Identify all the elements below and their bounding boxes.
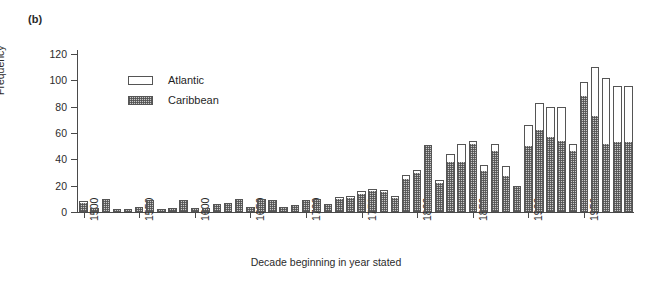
bar-segment-caribbean — [191, 208, 199, 212]
x-axis-title: Decade beginning in year stated — [0, 256, 652, 268]
bar-segment-caribbean — [457, 162, 465, 212]
bar-column — [491, 54, 499, 212]
y-axis-title: Frequency — [0, 45, 6, 95]
legend-item-caribbean: Caribbean — [128, 90, 219, 110]
x-tick-mark — [584, 213, 585, 218]
bar-segment-atlantic — [357, 191, 365, 194]
bar-segment-caribbean — [291, 205, 299, 212]
bar-column — [302, 54, 310, 212]
bar-column — [535, 54, 543, 212]
y-tick-mark — [71, 159, 77, 160]
bar-column — [402, 54, 410, 212]
bar-segment-caribbean — [569, 151, 577, 212]
bar-column — [435, 54, 443, 212]
figure-panel-b: (b) Frequency 020406080100120 1500155016… — [0, 0, 652, 287]
bar-segment-caribbean — [491, 151, 499, 212]
bar-segment-atlantic — [469, 141, 477, 144]
x-tick-mark — [139, 213, 140, 218]
bar-segment-caribbean — [524, 146, 532, 212]
bar-segment-caribbean — [268, 201, 276, 212]
bar-segment-caribbean — [391, 198, 399, 212]
bar-column — [557, 54, 565, 212]
bar-segment-atlantic — [557, 107, 565, 141]
bar-column — [357, 54, 365, 212]
bar-column — [413, 54, 421, 212]
x-tick-mark — [195, 213, 196, 218]
bar-segment-caribbean — [213, 204, 221, 212]
bar-column — [569, 54, 577, 212]
legend-label-atlantic: Atlantic — [168, 74, 204, 86]
bar-column — [90, 54, 98, 212]
y-tick: 20 — [71, 186, 77, 187]
bar-segment-caribbean — [446, 162, 454, 212]
bar-segment-caribbean — [224, 203, 232, 212]
chart-legend: Atlantic Caribbean — [128, 70, 219, 110]
bar-segment-atlantic — [391, 196, 399, 198]
bar-column — [368, 54, 376, 212]
bar-segment-caribbean — [602, 144, 610, 212]
bar-segment-atlantic — [480, 165, 488, 172]
bar-segment-caribbean — [124, 209, 132, 212]
x-tick-mark — [473, 213, 474, 218]
bar-segment-caribbean — [168, 208, 176, 212]
x-tick-mark — [417, 213, 418, 218]
y-tick-mark — [71, 212, 77, 213]
bar-segment-caribbean — [113, 209, 121, 212]
bar-column — [257, 54, 265, 212]
bar-column — [613, 54, 621, 212]
bar-segment-caribbean — [591, 116, 599, 212]
bar-segment-atlantic — [146, 200, 154, 202]
y-tick-label: 40 — [55, 153, 67, 165]
bar-segment-caribbean — [557, 141, 565, 212]
bar-segment-atlantic — [102, 199, 110, 201]
bar-column — [502, 54, 510, 212]
y-tick-label: 100 — [49, 74, 67, 86]
bar-column — [268, 54, 276, 212]
bar-segment-caribbean — [146, 201, 154, 212]
bar-segment-caribbean — [335, 199, 343, 212]
bar-segment-caribbean — [302, 201, 310, 212]
y-tick: 40 — [71, 159, 77, 160]
bar-segment-caribbean — [413, 173, 421, 213]
bar-segment-caribbean — [424, 146, 432, 212]
bar-segment-caribbean — [357, 194, 365, 212]
bar-column — [335, 54, 343, 212]
x-tick-mark — [250, 213, 251, 218]
bar-segment-atlantic — [546, 107, 554, 137]
bar-segment-atlantic — [302, 200, 310, 202]
panel-label: (b) — [28, 13, 42, 25]
bar-segment-atlantic — [380, 190, 388, 193]
y-tick: 120 — [71, 54, 77, 55]
bar-segment-caribbean — [246, 207, 254, 212]
y-tick-mark — [71, 107, 77, 108]
bar-segment-atlantic — [491, 144, 499, 152]
bar-column — [224, 54, 232, 212]
bar-segment-atlantic — [602, 78, 610, 144]
bar-segment-atlantic — [502, 166, 510, 177]
bar-segment-caribbean — [402, 179, 410, 212]
y-tick: 60 — [71, 133, 77, 134]
bar-column — [469, 54, 477, 212]
bar-segment-caribbean — [324, 204, 332, 212]
bar-segment-atlantic — [446, 154, 454, 162]
bar-segment-atlantic — [435, 180, 443, 183]
bar-segment-caribbean — [257, 200, 265, 212]
bar-column — [424, 54, 432, 212]
bar-column — [279, 54, 287, 212]
bar-segment-caribbean — [513, 186, 521, 212]
bar-column — [346, 54, 354, 212]
x-tick-mark — [84, 213, 85, 218]
y-tick: 0 — [71, 212, 77, 213]
bar-segment-caribbean — [624, 142, 632, 212]
bar-column — [291, 54, 299, 212]
bar-segment-atlantic — [624, 86, 632, 143]
bar-segment-atlantic — [535, 103, 543, 131]
y-tick-mark — [71, 186, 77, 187]
bar-column — [580, 54, 588, 212]
bar-segment-caribbean — [235, 200, 243, 212]
bar-segment-atlantic — [257, 199, 265, 201]
bar-segment-caribbean — [480, 171, 488, 212]
bar-column — [591, 54, 599, 212]
bar-segment-atlantic — [424, 145, 432, 147]
bar-segment-caribbean — [90, 208, 98, 212]
